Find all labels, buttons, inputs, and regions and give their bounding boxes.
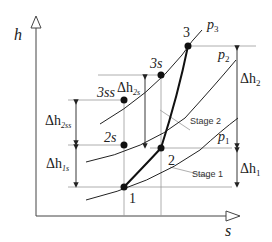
label-p1: p1 [217, 129, 230, 146]
guide-lines [68, 46, 256, 216]
label-point-1: 1 [129, 191, 136, 206]
label-dh2: Δh2 [240, 71, 261, 88]
label-dh1s: Δh1s [46, 156, 69, 173]
point-3ss [121, 97, 128, 104]
y-axis-arrow-icon [31, 16, 41, 28]
point-2 [158, 145, 165, 152]
label-p2: p2 [217, 47, 230, 64]
hs-diagram: h s 1 2 3 2s 3s [0, 0, 272, 242]
point-3 [185, 43, 192, 50]
y-axis-label: h [14, 26, 22, 43]
x-axis-arrow-icon [226, 211, 240, 221]
label-dh2s: Δh2s [117, 80, 140, 97]
label-stage2: Stage 2 [190, 116, 221, 126]
point-1 [121, 184, 128, 191]
label-stage1: Stage 1 [192, 169, 223, 179]
label-point-3ss: 3ss [96, 85, 115, 100]
label-point-3: 3 [183, 25, 190, 40]
label-dh1: Δh1 [240, 161, 261, 178]
point-3s [158, 72, 165, 79]
label-point-2: 2 [168, 153, 175, 168]
label-dh2ss: Δh2ss [45, 113, 71, 130]
label-point-3s: 3s [149, 56, 163, 71]
point-2s [121, 142, 128, 149]
label-point-2s: 2s [104, 130, 117, 145]
x-axis-label: s [225, 222, 231, 239]
label-p3: p3 [206, 17, 219, 34]
stage2-leader [160, 110, 190, 130]
